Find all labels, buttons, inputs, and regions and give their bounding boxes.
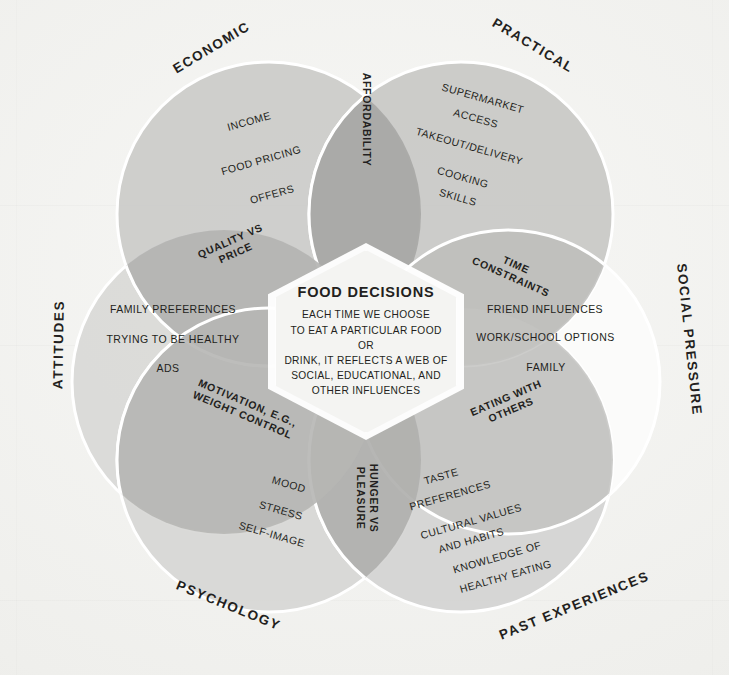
item-social-pressure-2: FAMILY (471, 361, 621, 373)
hexagon-body-line-2: DRINK, IT REFLECTS A WEB OF (284, 353, 447, 368)
hexagon-body-line-0: EACH TIME WE CHOOSE (302, 307, 430, 322)
category-label-attitudes: ATTITUDES (50, 300, 67, 389)
center-hexagon: FOOD DECISIONS EACH TIME WE CHOOSE TO EA… (268, 243, 464, 440)
hexagon-body-line-1: TO EAT A PARTICULAR FOOD OR (284, 323, 448, 353)
overlap-hunger-line2: PLEASURE (354, 448, 367, 548)
overlap-hunger-line1: HUNGER VS (367, 448, 380, 548)
item-social-pressure-1: WORK/SCHOOL OPTIONS (448, 331, 643, 343)
item-attitudes-1: TRYING TO BE HEALTHY (83, 333, 263, 345)
item-attitudes-2: ADS (113, 362, 223, 374)
venn-diagram-stage: ECONOMIC PRACTICAL SOCIAL PRESSURE PAST … (0, 0, 729, 675)
overlap-label-hunger-vs-pleasure: HUNGER VS PLEASURE (354, 448, 380, 548)
hexagon-body-line-4: OTHER INFLUENCES (312, 383, 421, 398)
hexagon-text-block: FOOD DECISIONS EACH TIME WE CHOOSE TO EA… (268, 243, 464, 440)
page-title: FOOD DECISIONS (298, 284, 435, 300)
overlap-label-affordability: AFFORDABILITY (359, 70, 372, 170)
overlap-affordability-line1: AFFORDABILITY (361, 73, 373, 167)
hexagon-body-line-3: SOCIAL, EDUCATIONAL, AND (291, 368, 441, 383)
item-social-pressure-0: FRIEND INFLUENCES (460, 303, 630, 315)
item-attitudes-0: FAMILY PREFERENCES (88, 303, 258, 315)
